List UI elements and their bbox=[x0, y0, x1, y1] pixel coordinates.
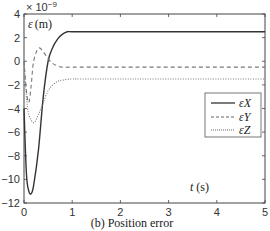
y-tick-label: −2 bbox=[7, 79, 20, 91]
y-tick-label: 0 bbox=[14, 55, 20, 67]
y-tick-label: −10 bbox=[1, 173, 20, 185]
x-tick-label: 0 bbox=[21, 206, 27, 218]
y-axis-label: ε(m) bbox=[28, 17, 52, 31]
y-multiplier: × 10−9 bbox=[26, 0, 57, 13]
x-tick-label: 4 bbox=[214, 206, 220, 218]
x-tick-label: 5 bbox=[262, 206, 268, 218]
legend-label-y: εY bbox=[239, 110, 252, 124]
position-error-chart: 012345420−2−4−6−8−10−12 × 10−9 ε(m) t(s)… bbox=[0, 0, 270, 231]
x-tick-label: 1 bbox=[69, 206, 75, 218]
y-tick-label: −8 bbox=[7, 150, 20, 162]
legend: εX εY εZ bbox=[205, 93, 261, 137]
y-tick-label: −12 bbox=[1, 197, 20, 209]
figure-caption: (b) Position error bbox=[91, 216, 174, 230]
y-tick-label: −4 bbox=[7, 103, 20, 115]
legend-label-x: εX bbox=[239, 96, 252, 110]
x-axis-label: t(s) bbox=[190, 180, 209, 194]
y-tick-label: 4 bbox=[14, 8, 20, 20]
y-tick-label: 2 bbox=[14, 32, 20, 44]
legend-label-z: εZ bbox=[239, 123, 251, 137]
y-tick-label: −6 bbox=[7, 126, 20, 138]
